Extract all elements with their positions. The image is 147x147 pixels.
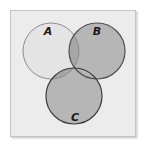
set-a-label: A [43,25,53,38]
set-b-label: B [93,25,101,38]
venn-diagram: A B C [0,0,147,147]
venn-diagram-figure: A B C [0,0,147,147]
set-c-label: C [71,111,79,124]
